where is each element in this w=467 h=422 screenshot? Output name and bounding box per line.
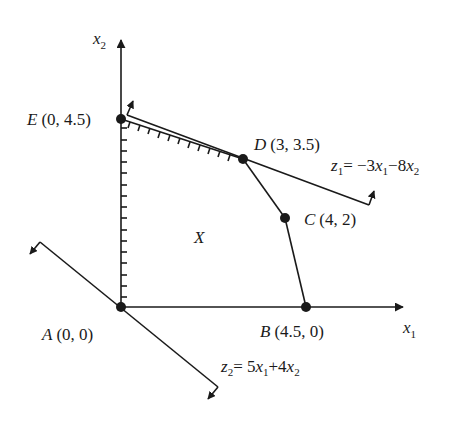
edge-d-c [243, 159, 285, 218]
z2-level-line [40, 242, 218, 387]
vertex-b [301, 302, 311, 312]
point-label-b: B(4.5, 0) [260, 322, 324, 341]
lp-diagram: x2 x1 X E(0, 4.5) D(3, 3.5) C(4, 2) A(0,… [0, 0, 467, 422]
edge-e-d-hatching [128, 122, 230, 161]
z1-equation: z1= −3x1−8x2 [330, 156, 419, 177]
x1-axis-label: x1 [402, 318, 416, 340]
feasible-region-label: X [193, 228, 205, 247]
x2-axis-label: x2 [92, 29, 106, 51]
z1-left-direction-arrow [127, 101, 133, 115]
vertex-a [116, 302, 126, 312]
vertex-e [116, 114, 126, 124]
point-label-e: E(0, 4.5) [26, 110, 91, 129]
z2-left-direction-arrow [30, 242, 40, 254]
vertex-c [280, 213, 290, 223]
point-label-a: A(0, 0) [41, 325, 93, 344]
point-label-d: D(3, 3.5) [253, 135, 320, 154]
z1-right-direction-arrow [369, 191, 374, 205]
x2-axis-hatching [121, 128, 127, 297]
z2-right-direction-arrow [208, 387, 218, 399]
z2-equation: z2= 5x1+4x2 [220, 357, 300, 378]
vertex-d [238, 154, 248, 164]
edge-c-b [285, 218, 306, 307]
point-label-c: C(4, 2) [304, 210, 356, 229]
